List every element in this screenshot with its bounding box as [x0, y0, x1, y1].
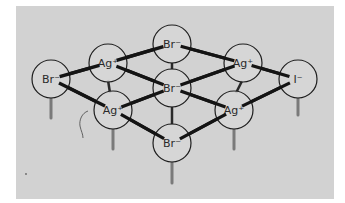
bond-br-left-ag-bottom-left: [59, 83, 105, 106]
stray-dot: [25, 173, 27, 175]
ion-br-bottom: Br⁻: [153, 124, 191, 162]
ion-ag-bottom-right: Ag⁺: [215, 91, 253, 129]
ion-label: Ag⁺: [103, 104, 124, 117]
bond-ag-top-left-br-center: [116, 66, 163, 84]
ion-label: Br⁻: [163, 137, 181, 150]
ion-br-left: Br⁻: [32, 60, 70, 98]
ion-label: Ag⁺: [233, 57, 254, 70]
ion-label: I⁻: [293, 73, 302, 86]
bond-ag-top-right-br-center: [181, 66, 235, 85]
ion-ag-top-left: Ag⁺: [89, 44, 127, 82]
ion-label: Br⁻: [163, 38, 181, 51]
hand-drawn-mark: [80, 111, 88, 138]
ions: Br⁻Ag⁺Br⁻Ag⁺I⁻Br⁻Ag⁺Ag⁺Br⁻: [32, 25, 317, 162]
ion-label: Br⁻: [42, 73, 60, 86]
crystal-lattice-diagram: Br⁻Ag⁺Br⁻Ag⁺I⁻Br⁻Ag⁺Ag⁺Br⁻: [0, 0, 345, 203]
bond-ag-bottom-right-br-bottom: [180, 114, 226, 139]
ion-label: Ag⁺: [224, 104, 245, 117]
ion-i-right: I⁻: [279, 60, 317, 98]
bond-i-right-ag-bottom-right: [242, 83, 290, 106]
ion-ag-top-right: Ag⁺: [224, 44, 262, 82]
ion-label: Br⁻: [163, 82, 181, 95]
bond-ag-bottom-left-br-bottom: [121, 114, 164, 138]
ion-br-top: Br⁻: [153, 25, 191, 63]
ion-label: Ag⁺: [98, 57, 119, 70]
ion-br-center: Br⁻: [153, 69, 191, 107]
ion-ag-bottom-left: Ag⁺: [94, 91, 132, 129]
